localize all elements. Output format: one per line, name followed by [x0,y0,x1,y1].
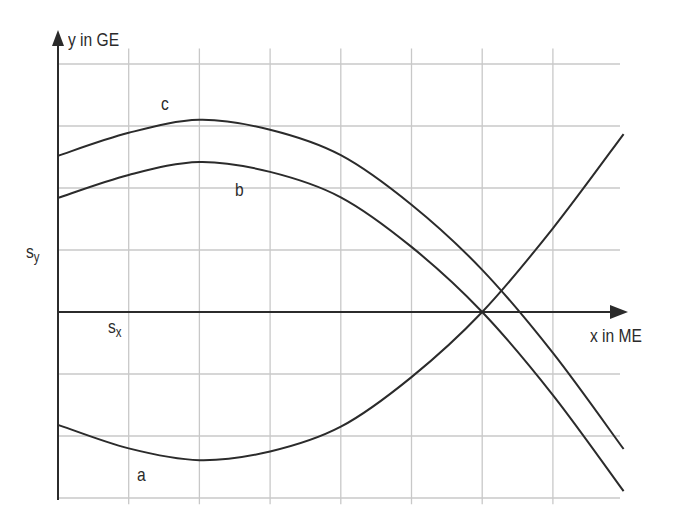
y-axis-arrow-icon [52,30,64,46]
sx-sub: x [116,324,122,340]
curve-b-label: b [235,180,244,199]
grid-lines [58,49,620,505]
sx-label: sx [108,317,122,336]
sx-main: s [108,316,116,337]
curve-c-label: c [161,94,169,113]
sy-sub: y [34,249,40,265]
chart-canvas [0,0,678,526]
y-axis-label: y in GE [68,30,119,49]
sy-label: sy [26,242,40,261]
sy-main: s [26,241,34,262]
x-axis-label: x in ME [590,326,642,345]
x-axis-arrow-icon [610,305,628,319]
curve-a-label: a [137,465,146,484]
axes [52,30,628,500]
